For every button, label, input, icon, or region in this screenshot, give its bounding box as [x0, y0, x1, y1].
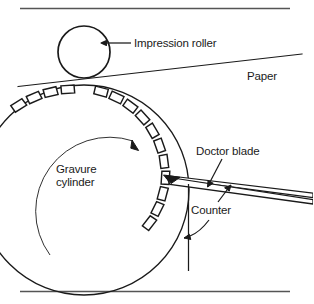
- label-paper: Paper: [247, 70, 277, 83]
- engraved-cell: [142, 216, 156, 231]
- label-gravure-cylinder-line1: Gravure: [56, 163, 97, 175]
- engraved-cell: [26, 91, 42, 103]
- engraved-cell: [123, 99, 138, 113]
- label-doctor-blade: Doctor blade: [196, 145, 259, 158]
- label-gravure-cylinder-line2: cylinder: [56, 176, 94, 188]
- engraved-cell: [61, 85, 75, 94]
- engraved-cell: [154, 138, 166, 153]
- label-gravure-cylinder: Gravurecylinder: [56, 163, 97, 188]
- engraved-cell: [146, 123, 159, 138]
- engraved-cell: [43, 87, 58, 98]
- engraved-cell: [151, 202, 164, 217]
- engraved-cells-group: [11, 85, 170, 231]
- engraved-cell: [11, 99, 27, 113]
- gravure-printing-diagram: Impression roller Paper Gravurecylinder …: [0, 0, 313, 304]
- engraved-cell: [135, 110, 150, 125]
- impression-roller-leader: [101, 41, 131, 46]
- gravure-cylinder-inner-arc: [36, 137, 133, 255]
- engraved-cell: [157, 187, 168, 201]
- label-impression-roller: Impression roller: [134, 37, 216, 50]
- doctor-blade-group: [164, 175, 314, 204]
- counter-lower-leader: [184, 220, 209, 240]
- label-counter: Counter: [191, 204, 231, 217]
- engraved-cell: [159, 154, 169, 168]
- engraved-cell: [109, 91, 124, 104]
- rotation-arrow: [131, 140, 139, 151]
- impression-roller-circle: [58, 26, 110, 78]
